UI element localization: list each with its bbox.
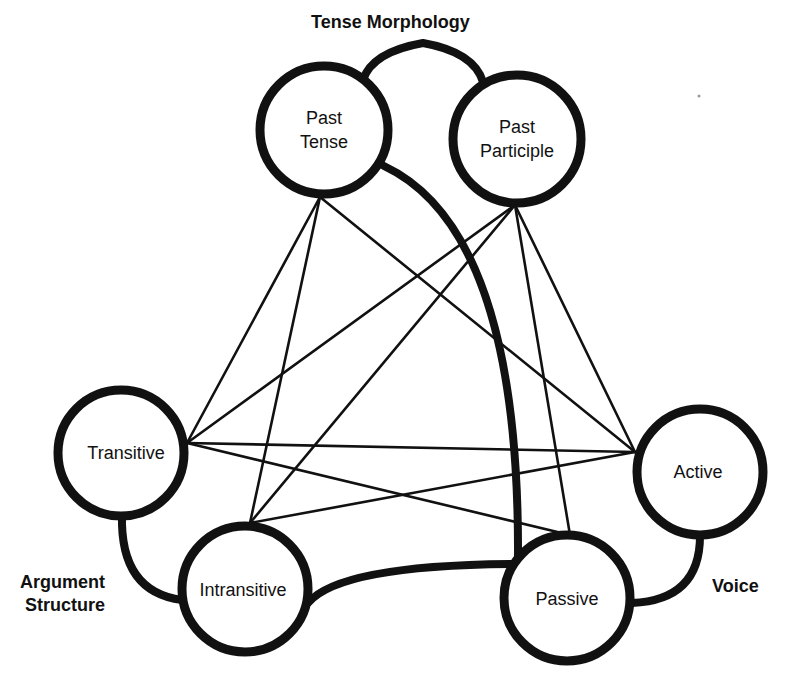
- node-label-past-tense-line1: Past: [306, 108, 342, 128]
- node-label-intransitive: Intransitive: [199, 580, 286, 600]
- morphology-network-diagram: Past Tense Past Participle Transitive In…: [0, 0, 785, 681]
- edge-past-tense-transitive: [187, 197, 320, 443]
- edge-past-participle-active: [515, 205, 635, 452]
- node-passive: Passive: [504, 535, 630, 661]
- edge-tense-morphology-arc: [363, 43, 483, 82]
- node-label-past-participle-line1: Past: [499, 117, 535, 137]
- node-past-tense: Past Tense: [260, 66, 388, 194]
- edge-transitive-active: [187, 443, 635, 452]
- thick-edges: [122, 43, 700, 603]
- edge-voice-arc: [632, 536, 700, 603]
- node-past-participle: Past Participle: [453, 75, 581, 203]
- edge-past-tense-intransitive: [250, 197, 320, 523]
- node-active: Active: [637, 409, 763, 535]
- edge-past-participle-transitive: [187, 205, 515, 443]
- node-label-past-participle-line2: Participle: [480, 141, 554, 161]
- edge-argument-structure-arc: [122, 515, 182, 600]
- edge-past-participle-passive: [515, 205, 570, 535]
- group-label-argument-line2: Structure: [25, 595, 105, 615]
- thin-edges: [187, 197, 635, 535]
- group-label-voice: Voice: [712, 576, 759, 596]
- node-intransitive: Intransitive: [182, 526, 308, 652]
- node-label-active: Active: [673, 462, 722, 482]
- group-label-tense-morphology: Tense Morphology: [311, 12, 470, 32]
- edge-intransitive-active: [250, 452, 635, 523]
- node-label-passive: Passive: [535, 589, 598, 609]
- node-label-past-tense-line2: Tense: [300, 132, 348, 152]
- edge-past-tense-active: [320, 197, 635, 452]
- scan-speck: [698, 95, 701, 98]
- node-label-transitive: Transitive: [87, 443, 164, 463]
- node-transitive: Transitive: [58, 390, 184, 516]
- group-label-argument-line1: Argument: [20, 572, 105, 592]
- edge-intransitive-passive-arc: [308, 564, 515, 603]
